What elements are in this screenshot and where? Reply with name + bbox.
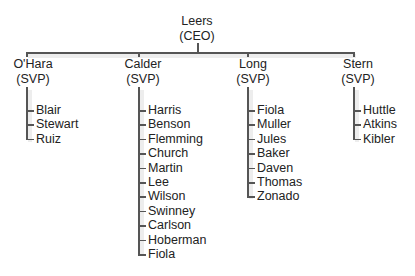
shadow	[140, 90, 144, 256]
shadow	[355, 90, 359, 142]
svp-node-calder: Calder (SVP)	[125, 57, 162, 87]
trunk-ohara	[26, 87, 28, 140]
report-name: Blair	[36, 103, 61, 117]
shadow	[28, 90, 32, 142]
trunk-long	[247, 87, 249, 197]
branch-tick	[138, 110, 146, 112]
org-chart: Leers (CEO) O'Hara (SVP) Calder (SVP) Lo…	[0, 0, 415, 276]
svp-name: Stern	[341, 57, 374, 72]
branch-tick	[138, 168, 146, 170]
trunk-stern	[353, 87, 355, 140]
bar-shadow	[28, 54, 356, 58]
branch-tick	[247, 182, 255, 184]
branch-tick	[247, 124, 255, 126]
branch-tick	[247, 196, 255, 198]
report-name: Harris	[148, 103, 181, 117]
report-name: Atkins	[363, 117, 397, 131]
branch-tick	[26, 139, 34, 141]
report-name: Church	[148, 146, 188, 160]
report-name: Muller	[257, 117, 291, 131]
svp-node-stern: Stern (SVP)	[341, 57, 374, 87]
svp-name: Long	[236, 57, 269, 72]
ceo-name: Leers	[179, 14, 214, 29]
report-name: Flemming	[148, 132, 203, 146]
svp-title: (SVP)	[13, 72, 52, 87]
report-name: Baker	[257, 146, 290, 160]
branch-tick	[26, 124, 34, 126]
report-name: Daven	[257, 161, 293, 175]
report-name: Hoberman	[148, 233, 206, 247]
report-name: Carlson	[148, 218, 191, 232]
report-name: Jules	[257, 132, 286, 146]
branch-tick	[353, 124, 361, 126]
branch-tick	[26, 110, 34, 112]
svp-name: Calder	[125, 57, 162, 72]
report-name: Stewart	[36, 117, 78, 131]
svp-node-long: Long (SVP)	[236, 57, 269, 87]
branch-tick	[247, 139, 255, 141]
trunk-calder	[138, 87, 140, 254]
branch-tick	[138, 124, 146, 126]
report-name: Thomas	[257, 175, 302, 189]
report-name: Benson	[148, 117, 190, 131]
report-name: Zonado	[257, 189, 299, 203]
branch-tick	[138, 225, 146, 227]
ceo-connector	[197, 43, 199, 52]
report-name: Wilson	[148, 189, 186, 203]
branch-tick	[138, 182, 146, 184]
report-name: Fiola	[148, 247, 175, 261]
branch-tick	[247, 153, 255, 155]
branch-tick	[138, 211, 146, 213]
svp-title: (SVP)	[125, 72, 162, 87]
branch-tick	[138, 139, 146, 141]
branch-tick	[353, 110, 361, 112]
report-name: Lee	[148, 175, 169, 189]
svp-title: (SVP)	[341, 72, 374, 87]
branch-tick	[138, 254, 146, 256]
report-name: Kibler	[363, 132, 395, 146]
branch-tick	[353, 139, 361, 141]
branch-tick	[138, 153, 146, 155]
ceo-title: (CEO)	[179, 29, 214, 44]
svp-node-ohara: O'Hara (SVP)	[13, 57, 52, 87]
branch-tick	[247, 168, 255, 170]
ceo-node: Leers (CEO)	[179, 14, 214, 44]
branch-tick	[138, 240, 146, 242]
branch-tick	[247, 110, 255, 112]
report-name: Ruiz	[36, 132, 61, 146]
svp-title: (SVP)	[236, 72, 269, 87]
report-name: Huttle	[363, 103, 396, 117]
svp-name: O'Hara	[13, 57, 52, 72]
cropped-caption	[4, 268, 414, 276]
report-name: Swinney	[148, 204, 195, 218]
branch-tick	[138, 196, 146, 198]
report-name: Fiola	[257, 103, 284, 117]
svp-bar	[26, 52, 354, 54]
report-name: Martin	[148, 161, 183, 175]
